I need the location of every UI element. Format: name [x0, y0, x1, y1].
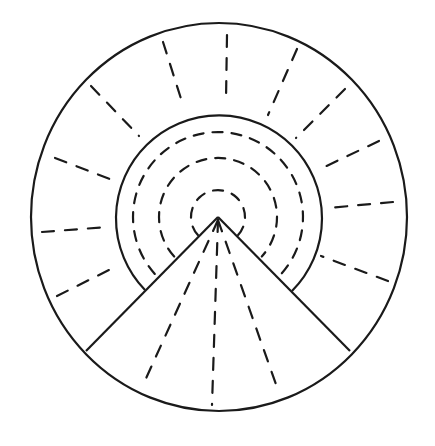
wedge-ray-2: [212, 220, 218, 405]
outer-ray-9: [318, 141, 379, 170]
outer-ray-1: [226, 35, 227, 100]
outer-ray-10: [328, 202, 393, 208]
wedge-left-line: [86, 217, 218, 351]
outer-ray-6: [57, 267, 115, 296]
wedge-boundary-lines: [86, 217, 350, 351]
outer-ray-5: [42, 227, 107, 232]
wedge-right-line: [218, 217, 350, 351]
inner-circle-arc: [116, 115, 322, 291]
outer-ray-7: [268, 49, 297, 115]
outer-ray-2: [163, 42, 183, 105]
wedge-ray-3: [218, 220, 278, 390]
outer-ray-11: [321, 256, 388, 281]
wedge-ray-1: [143, 220, 218, 385]
concentric-wedge-diagram: [0, 0, 435, 446]
outer-ray-3: [91, 86, 139, 136]
outer-ray-8: [296, 89, 345, 138]
wedge-dashed-rays: [143, 220, 278, 405]
diagram-canvas: [0, 0, 435, 446]
dashed-arc-2: [159, 158, 277, 257]
outer-ray-4: [55, 158, 115, 181]
outer-ring-dashed-rays: [42, 35, 393, 296]
